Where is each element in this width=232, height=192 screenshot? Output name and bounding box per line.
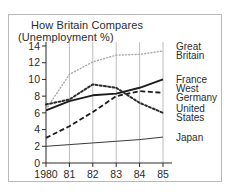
x-tick-label: 84 <box>134 168 146 180</box>
y-axis-ticks: 02468101214 <box>28 40 46 169</box>
legend-label-west-germany: Germany <box>176 92 217 103</box>
series-line-japan <box>46 137 163 146</box>
x-tick-label: 1980 <box>34 168 58 180</box>
y-tick-label: 14 <box>28 40 40 52</box>
legend-label-japan: Japan <box>176 132 203 143</box>
series-line-united-states <box>46 84 163 112</box>
x-tick-label: 81 <box>64 168 76 180</box>
line-chart-plot: 02468101214 19808182838485 GreatBritainF… <box>9 15 221 181</box>
y-tick-label: 8 <box>34 90 40 102</box>
series-line-west-germany <box>46 91 163 138</box>
x-tick-label: 85 <box>157 168 169 180</box>
chart-gridlines <box>69 42 163 163</box>
legend-label-great-britain: Britain <box>176 50 204 61</box>
x-axis-ticks: 19808182838485 <box>34 163 169 180</box>
chart-series-layer <box>46 51 163 146</box>
y-tick-label: 6 <box>34 107 40 119</box>
chart-figure: How Britain Compares (Unemployment %) 02… <box>8 14 222 182</box>
y-tick-label: 2 <box>34 140 40 152</box>
chart-legend: GreatBritainFranceWestGermanyUnitedState… <box>176 41 217 143</box>
y-tick-label: 0 <box>34 157 40 169</box>
x-tick-label: 83 <box>110 168 122 180</box>
legend-label-united-states: States <box>176 112 204 123</box>
x-tick-label: 82 <box>87 168 99 180</box>
y-tick-label: 10 <box>28 73 40 85</box>
y-tick-label: 4 <box>34 123 40 135</box>
y-tick-label: 12 <box>28 56 40 68</box>
